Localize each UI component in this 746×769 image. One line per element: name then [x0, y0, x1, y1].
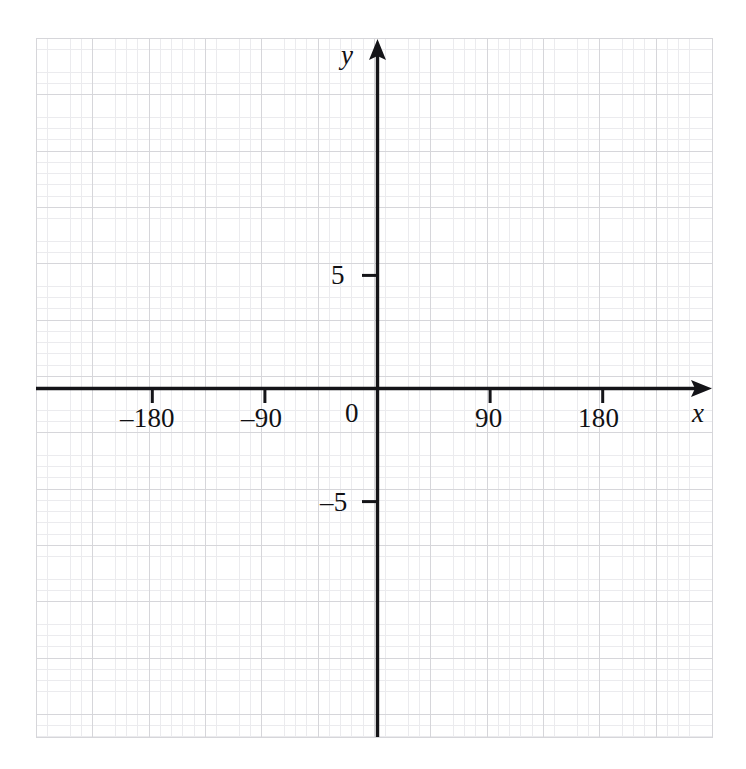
- x-tick-label-pos90: 90: [475, 405, 502, 432]
- x-tick-label-neg180: –180: [120, 405, 175, 432]
- y-tick-label-neg5: –5: [320, 489, 347, 516]
- x-tick-label-pos180: 180: [578, 405, 619, 432]
- coordinate-grid-figure: y x 0 –180 –90 90 180 5 –5: [0, 0, 746, 769]
- x-axis-label: x: [692, 400, 704, 427]
- y-tick-label-pos5: 5: [331, 262, 345, 289]
- origin-label: 0: [345, 400, 359, 427]
- y-axis-label: y: [341, 42, 353, 69]
- axes-layer: [0, 0, 746, 769]
- x-tick-label-neg90: –90: [241, 405, 282, 432]
